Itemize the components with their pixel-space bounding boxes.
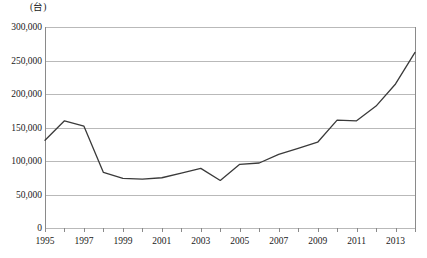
line-chart: (台) 050,000100,000150,000200,000250,0003… xyxy=(0,0,427,258)
series-line xyxy=(45,52,415,180)
series-layer xyxy=(0,0,427,258)
